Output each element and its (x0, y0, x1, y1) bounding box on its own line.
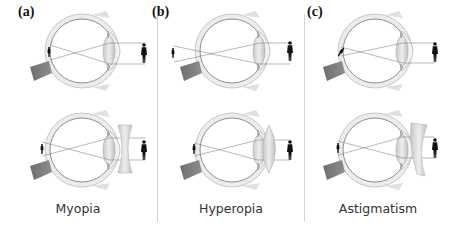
hyperopia-diagram (158, 0, 304, 234)
image-behind-retina-icon (172, 48, 175, 58)
myopia-diagram (0, 0, 157, 234)
person-silhouette-icon (432, 138, 438, 158)
cylindrical-lens-icon (411, 123, 427, 176)
person-silhouette-icon (287, 140, 293, 160)
person-silhouette-icon (432, 42, 438, 62)
eye-cross-section-icon (30, 11, 120, 91)
person-silhouette-icon (141, 43, 147, 63)
panel-hyperopia: (b) Hyperopia (158, 0, 304, 234)
panel-astigmatism: (c) Astigmatism (305, 0, 462, 234)
caption-astigmatism: Astigmatism (303, 201, 453, 216)
retina-image-icon (41, 144, 44, 154)
eye-cross-section-icon (323, 11, 413, 91)
caption-hyperopia: Hyperopia (156, 201, 306, 216)
astigmatism-diagram (305, 0, 462, 234)
caption-myopia: Myopia (3, 201, 153, 216)
eye-cross-section-icon (323, 110, 413, 190)
person-silhouette-icon (141, 140, 147, 160)
person-silhouette-icon (287, 41, 293, 61)
panel-myopia: (a) Myopia (0, 0, 157, 234)
